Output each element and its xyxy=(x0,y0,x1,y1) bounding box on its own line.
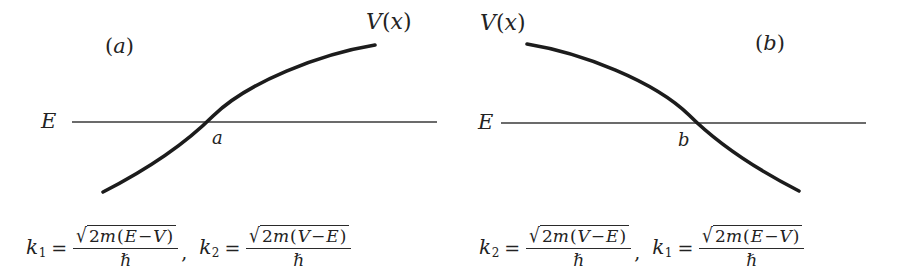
paren-close: ) xyxy=(792,226,801,246)
potential-label-b-symbol: V xyxy=(480,10,496,35)
paren-close: ) xyxy=(339,226,348,246)
formula-right-first-fraction: √ 2m(V−E) ℏ xyxy=(526,225,631,270)
mass-symbol: m xyxy=(273,226,289,246)
term-a: V xyxy=(578,226,590,246)
potential-label-a-paren-close: ) xyxy=(403,9,412,34)
energy-label-b: E xyxy=(478,112,493,133)
term-b: E xyxy=(606,226,618,246)
panel-a-tag-close: ) xyxy=(126,34,134,58)
paren-open: ( xyxy=(569,226,578,246)
mass-symbol: m xyxy=(726,226,742,246)
fraction-denominator: ℏ xyxy=(246,249,351,270)
k-symbol: k xyxy=(199,235,211,259)
potential-label-b-arg: x xyxy=(504,10,516,35)
formula-row: k1 = √ 2m(E−V) ℏ , k2 = √ 2m( xyxy=(0,216,906,279)
fraction-numerator: √ 2m(V−E) xyxy=(526,225,631,248)
potential-label-a-symbol: V xyxy=(366,9,382,34)
paren-open: ( xyxy=(289,226,298,246)
formula-left: k1 = √ 2m(E−V) ℏ , k2 = √ 2m( xyxy=(26,216,351,279)
formula-left-second-symbol: k2 xyxy=(199,235,219,260)
turning-point-label-b: b xyxy=(678,131,690,149)
minus-sign: − xyxy=(590,226,606,246)
term-b: V xyxy=(153,226,165,246)
mass-symbol: m xyxy=(100,226,116,246)
square-root: √ 2m(E−V) xyxy=(701,225,802,247)
term-b: V xyxy=(779,226,791,246)
k-symbol: k xyxy=(652,235,664,259)
formula-left-separator: , xyxy=(181,241,187,279)
k-symbol: k xyxy=(479,235,491,259)
k-subscript: 1 xyxy=(39,246,47,260)
fraction-numerator: √ 2m(V−E) xyxy=(246,225,351,248)
potential-label-a-arg: x xyxy=(390,9,402,34)
equals-sign: = xyxy=(504,237,520,259)
radicand: 2m(V−E) xyxy=(540,225,629,247)
k-subscript: 2 xyxy=(492,246,500,260)
wkb-turning-point-figure: (a) V(x) E a (b) V(x) E b k1 = √ 2m(E−V) xyxy=(0,0,906,279)
coefficient: 2 xyxy=(542,226,553,246)
square-root: √ 2m(V−E) xyxy=(528,225,629,247)
term-b: E xyxy=(326,226,338,246)
panel-a-tag-letter: a xyxy=(113,34,126,58)
radicand: 2m(E−V) xyxy=(87,225,176,247)
coefficient: 2 xyxy=(89,226,100,246)
term-a: E xyxy=(751,226,763,246)
panel-b-tag: (b) xyxy=(755,33,785,54)
coefficient: 2 xyxy=(262,226,273,246)
panel-a-tag: (a) xyxy=(105,36,134,57)
fraction-denominator: ℏ xyxy=(699,249,804,270)
potential-label-b-paren-close: ) xyxy=(517,10,526,35)
minus-sign: − xyxy=(137,226,153,246)
panel-a-tag-open: ( xyxy=(105,34,113,58)
fraction-denominator: ℏ xyxy=(73,249,178,270)
term-a: V xyxy=(298,226,310,246)
k-symbol: k xyxy=(26,235,38,259)
turning-point-label-a: a xyxy=(212,129,223,147)
panel-b-tag-open: ( xyxy=(755,31,763,55)
potential-label-a: V(x) xyxy=(366,11,412,33)
potential-curve-b xyxy=(527,44,799,191)
coefficient: 2 xyxy=(715,226,726,246)
fraction-denominator: ℏ xyxy=(526,249,631,270)
square-root: √ 2m(V−E) xyxy=(248,225,349,247)
formula-right-first-symbol: k2 xyxy=(479,235,499,260)
potential-curve-a xyxy=(103,45,375,192)
equals-sign: = xyxy=(224,237,240,259)
square-root: √ 2m(E−V) xyxy=(75,225,176,247)
formula-right: k2 = √ 2m(V−E) ℏ , k1 = √ 2m( xyxy=(479,216,804,279)
formula-right-second-symbol: k1 xyxy=(652,235,672,260)
radicand: 2m(E−V) xyxy=(713,225,802,247)
radicand: 2m(V−E) xyxy=(260,225,349,247)
fraction-numerator: √ 2m(E−V) xyxy=(699,225,804,248)
panel-b-tag-close: ) xyxy=(777,31,785,55)
paren-close: ) xyxy=(618,226,627,246)
formula-left-second-fraction: √ 2m(V−E) ℏ xyxy=(246,225,351,270)
radical-icon: √ xyxy=(529,225,540,247)
formula-left-first-symbol: k1 xyxy=(26,235,46,260)
equals-sign: = xyxy=(51,237,67,259)
formula-right-separator: , xyxy=(634,241,640,279)
term-a: E xyxy=(125,226,137,246)
minus-sign: − xyxy=(310,226,326,246)
potential-label-b: V(x) xyxy=(480,12,526,34)
radical-icon: √ xyxy=(702,225,713,247)
paren-close: ) xyxy=(165,226,174,246)
formula-left-first-fraction: √ 2m(E−V) ℏ xyxy=(73,225,178,270)
equals-sign: = xyxy=(677,237,693,259)
radical-icon: √ xyxy=(249,225,260,247)
energy-label-a: E xyxy=(41,111,56,132)
radical-icon: √ xyxy=(76,225,87,247)
panel-b-tag-letter: b xyxy=(763,31,776,55)
fraction-numerator: √ 2m(E−V) xyxy=(73,225,178,248)
mass-symbol: m xyxy=(553,226,569,246)
k-subscript: 1 xyxy=(665,246,673,260)
paren-open: ( xyxy=(742,226,751,246)
formula-right-second-fraction: √ 2m(E−V) ℏ xyxy=(699,225,804,270)
minus-sign: − xyxy=(763,226,779,246)
paren-open: ( xyxy=(116,226,125,246)
k-subscript: 2 xyxy=(212,246,220,260)
